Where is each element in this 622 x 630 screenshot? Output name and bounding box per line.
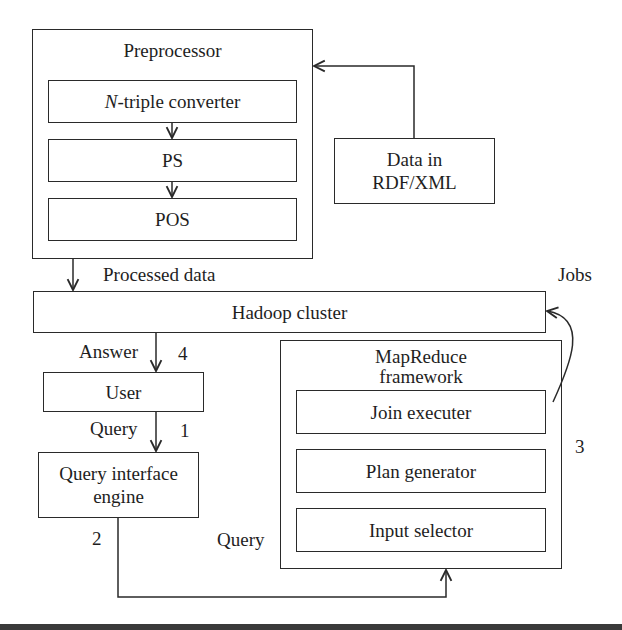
user-box: User [43, 372, 204, 412]
bottom-rule [0, 624, 622, 630]
step-4-label: 4 [178, 343, 188, 365]
input-selector-box: Input selector [296, 508, 546, 552]
data-source-line2: RDF/XML [372, 171, 456, 194]
hadoop-cluster-box: Hadoop cluster [33, 291, 546, 333]
ntriple-converter-label: N-triple converter [105, 90, 241, 113]
pos-box: POS [48, 198, 297, 241]
input-selector-label: Input selector [369, 519, 473, 542]
arrow-data-to-preprocessor [314, 66, 414, 138]
data-source-box: Data in RDF/XML [334, 138, 495, 204]
step-2-label: 2 [92, 528, 102, 550]
query-user-label: Query [90, 418, 137, 440]
ps-box: PS [48, 139, 297, 182]
query-interface-line2: engine [93, 485, 144, 508]
query-interface-engine-box: Query interface engine [38, 452, 199, 518]
hadoop-cluster-label: Hadoop cluster [232, 301, 348, 324]
ps-label: PS [162, 149, 183, 172]
jobs-label: Jobs [558, 264, 592, 286]
processed-data-label: Processed data [103, 264, 215, 286]
query-mapreduce-label: Query [217, 529, 264, 551]
mapreduce-title-line1: MapReduce [281, 346, 561, 368]
data-source-line1: Data in [387, 148, 442, 171]
user-label: User [106, 381, 142, 404]
step-3-label: 3 [575, 436, 585, 458]
preprocessor-title: Preprocessor [33, 40, 312, 62]
join-executer-box: Join executer [296, 390, 546, 434]
plan-generator-box: Plan generator [296, 449, 546, 493]
pos-label: POS [155, 208, 190, 231]
ntriple-converter-box: N-triple converter [48, 80, 297, 123]
answer-label: Answer [79, 341, 138, 363]
join-executer-label: Join executer [371, 401, 472, 424]
query-interface-line1: Query interface [59, 462, 178, 485]
mapreduce-title-line2: framework [281, 366, 561, 388]
step-1-label: 1 [180, 420, 190, 442]
plan-generator-label: Plan generator [366, 460, 476, 483]
